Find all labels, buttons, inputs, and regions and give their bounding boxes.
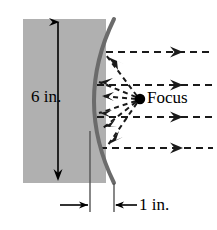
depth-dimension-label: 1 in. bbox=[139, 196, 169, 213]
reflected-ray-4 bbox=[108, 103, 137, 145]
reflected-arrowhead-1 bbox=[108, 57, 124, 70]
reflected-ray-1 bbox=[106, 55, 137, 96]
focus-label: Focus bbox=[147, 89, 188, 106]
height-dimension-label: 6 in. bbox=[31, 88, 61, 105]
figure-canvas bbox=[0, 0, 217, 230]
reflected-ray-6 bbox=[103, 102, 136, 128]
focus-point-dot bbox=[135, 94, 145, 104]
parabolic-reflector-figure: 6 in. Focus 1 in. bbox=[0, 0, 217, 230]
ray-arrowhead-4 bbox=[170, 143, 183, 154]
